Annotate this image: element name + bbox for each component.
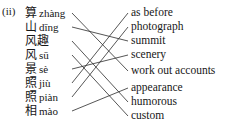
right-item[interactable]: summit <box>131 33 166 47</box>
left-item-hanzi: 风趣 <box>25 34 49 48</box>
left-item[interactable]: 景sè <box>25 61 48 75</box>
left-item-hanzi: 风 <box>25 48 37 62</box>
left-item[interactable]: 山dīng <box>25 19 59 33</box>
right-item[interactable]: custom <box>131 108 164 122</box>
right-item[interactable]: appearance <box>131 80 183 94</box>
left-item[interactable]: 算zhàng <box>25 5 65 19</box>
left-item-pinyin: mào <box>39 105 58 117</box>
left-item-pinyin: sū <box>39 49 49 61</box>
left-item-pinyin: jiù <box>39 77 51 89</box>
right-item[interactable]: humorous <box>131 94 177 108</box>
left-item-hanzi: 照 <box>25 90 37 104</box>
left-item-hanzi: 景 <box>25 62 37 76</box>
right-item[interactable]: scenery <box>131 47 166 61</box>
exercise-number-label: (ii) <box>2 5 15 17</box>
left-item-pinyin: piàn <box>39 91 58 103</box>
left-item[interactable]: 风sū <box>25 47 49 61</box>
left-item-pinyin: sè <box>39 63 48 75</box>
left-item[interactable]: 风趣 <box>25 33 49 47</box>
left-item-pinyin: dīng <box>39 21 59 33</box>
left-item-hanzi: 照 <box>25 76 37 90</box>
left-item-pinyin: zhàng <box>39 7 65 19</box>
right-item[interactable]: photograph <box>131 19 183 33</box>
right-item[interactable]: as before <box>131 5 173 19</box>
left-item[interactable]: 相mào <box>25 103 58 117</box>
left-item-hanzi: 山 <box>25 20 37 34</box>
right-column: as beforephotographsummitscenerywork out… <box>131 0 237 128</box>
left-item-hanzi: 相 <box>25 104 37 118</box>
matching-exercise: (ii) 算zhàng山dīng风趣风sū景sè照jiù照piàn相mào as… <box>0 0 237 128</box>
left-item[interactable]: 照jiù <box>25 75 51 89</box>
left-item[interactable]: 照piàn <box>25 89 58 103</box>
left-item-hanzi: 算 <box>25 6 37 20</box>
left-column: 算zhàng山dīng风趣风sū景sè照jiù照piàn相mào <box>25 0 85 128</box>
right-item[interactable]: work out accounts <box>131 63 215 77</box>
